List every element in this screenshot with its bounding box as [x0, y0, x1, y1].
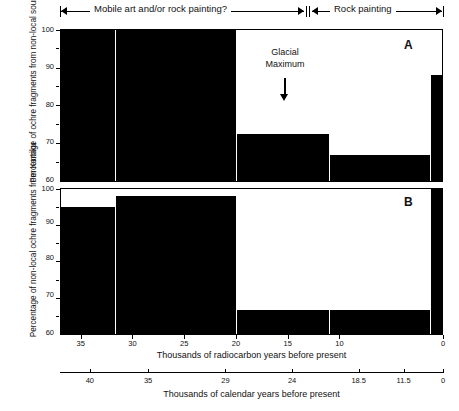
radiocarbon-tick-label: 15 [273, 339, 303, 348]
calendar-tick-label: 29 [210, 376, 240, 385]
panel-a-ytick-75 [56, 124, 59, 125]
calendar-tick [225, 369, 226, 373]
radiocarbon-axis-title: Thousands of radiocarbon years before pr… [60, 350, 443, 360]
panel-a-ytick-label-60: 60 [36, 176, 54, 184]
calendar-tick-label: 35 [133, 376, 163, 385]
calendar-axis-line [60, 372, 443, 373]
bracket-divider-a [306, 6, 307, 17]
bracket-2-label: Rock painting [330, 2, 396, 15]
panel-b-ytick-label-60: 60 [36, 329, 54, 337]
panel-b-ytick-label-90: 90 [36, 218, 54, 226]
panel-b-bars-container [61, 189, 442, 334]
panel-a-ytick-label-80: 80 [36, 101, 54, 109]
radiocarbon-tick-label: 0 [428, 339, 458, 348]
panel-a-ytick-85 [56, 86, 59, 87]
glacial-maximum-label-line1: Glacial [245, 47, 325, 58]
calendar-tick [90, 369, 91, 373]
bar-separator [430, 30, 431, 181]
glacial-maximum-label-line2: Maximum [245, 59, 325, 70]
panel-a-ytick-95 [56, 48, 59, 49]
bar-separator [236, 189, 237, 334]
bracket-1-label: Mobile art and/or rock painting? [90, 2, 231, 15]
calendar-tick-label: 18.5 [344, 376, 374, 385]
calendar-tick [404, 369, 405, 373]
panel-b-ytick-label-100: 100 [36, 185, 54, 193]
bar [329, 310, 430, 334]
period-bracket-row: Mobile art and/or rock painting? Rock pa… [0, 0, 459, 24]
bar [115, 30, 237, 181]
bar-separator [236, 30, 237, 181]
bar [430, 189, 442, 334]
panel-a-ytick-label-100: 100 [36, 26, 54, 34]
panel-a-letter: A [404, 38, 413, 52]
bar [236, 310, 329, 334]
bar [61, 30, 115, 181]
bracket-1-right-arrow-icon [298, 7, 304, 15]
bar-separator [329, 189, 330, 334]
bar-separator [329, 30, 330, 181]
panel-b-ytick-65 [56, 316, 59, 317]
panel-a-ytick-label-70: 70 [36, 138, 54, 146]
panel-a-ytick-65 [56, 162, 59, 163]
bar-separator [115, 189, 116, 334]
panel-b-ytick-label-80: 80 [36, 254, 54, 262]
calendar-tick-label: 0 [428, 376, 458, 385]
panel-a-ytick-label-90: 90 [36, 63, 54, 71]
radiocarbon-tick-label: 10 [324, 339, 354, 348]
panel-b-y-axis-title-text: Percentage of non-local ochre fragments … [29, 142, 38, 337]
calendar-tick [292, 369, 293, 373]
bar [329, 155, 430, 181]
bracket-2-right-arrow-icon [436, 7, 442, 15]
radiocarbon-tick-label: 25 [169, 339, 199, 348]
calendar-tick [359, 369, 360, 373]
calendar-tick-label: 24 [277, 376, 307, 385]
calendar-tick-label: 40 [75, 376, 105, 385]
bar [236, 134, 329, 181]
bar [115, 196, 237, 334]
panel-b-ytick-95 [56, 207, 59, 208]
radiocarbon-tick-label: 35 [66, 339, 96, 348]
figure-root: Mobile art and/or rock painting? Rock pa… [0, 0, 459, 411]
calendar-tick-label: 11.5 [389, 376, 419, 385]
panel-b-ytick-75 [56, 280, 59, 281]
bracket-divider-b [309, 6, 310, 17]
bar-separator [115, 30, 116, 181]
calendar-axis-title: Thousands of calendar years before prese… [60, 389, 443, 399]
calendar-tick [443, 369, 444, 373]
panel-b-plot-area [60, 188, 443, 335]
bar-separator [430, 189, 431, 334]
panel-b-ytick-85 [56, 243, 59, 244]
glacial-maximum-down-arrow-icon [280, 94, 288, 101]
radiocarbon-tick-label: 30 [117, 339, 147, 348]
bracket-2-right-cap [443, 6, 444, 17]
bar [430, 75, 442, 181]
calendar-tick [148, 369, 149, 373]
panel-b-letter: B [404, 195, 413, 209]
panel-b-ytick-label-70: 70 [36, 291, 54, 299]
bar [61, 207, 115, 334]
radiocarbon-tick-label: 20 [221, 339, 251, 348]
